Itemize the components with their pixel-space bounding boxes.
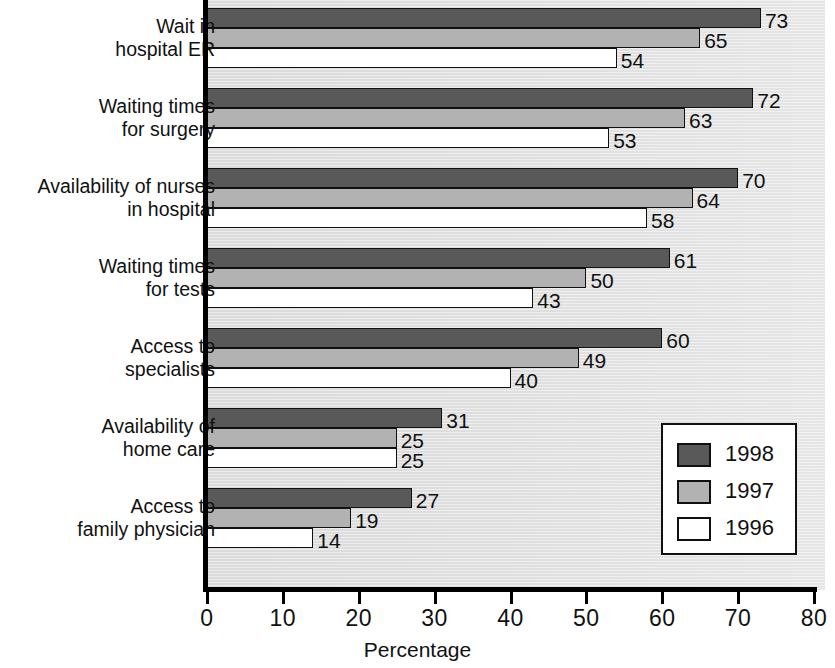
x-tick-60 (661, 592, 664, 604)
bar-value-label: 72 (757, 89, 780, 113)
bar-1998-6 (207, 488, 412, 508)
x-tick-label-10: 10 (253, 605, 313, 632)
bar-value-label: 50 (590, 269, 613, 293)
white-swatch-icon (677, 517, 711, 541)
y-axis-line (203, 0, 208, 592)
x-tick-10 (282, 592, 285, 604)
bar-1998-5 (207, 408, 442, 428)
bar-chart: 7365547263537064586150436049403125252719… (0, 0, 835, 668)
category-label-0: Wait in hospital ER (0, 15, 215, 61)
x-tick-0 (206, 592, 209, 604)
bar-value-label: 54 (621, 49, 644, 73)
legend-label: 1997 (725, 478, 774, 504)
bar-1997-5 (207, 428, 397, 448)
bar-1998-0 (207, 8, 761, 28)
bar-1996-4 (207, 368, 511, 388)
category-label-1: Waiting times for surgery (0, 95, 215, 141)
bar-value-label: 31 (446, 409, 469, 433)
bar-value-label: 27 (416, 489, 439, 513)
bar-1996-1 (207, 128, 609, 148)
x-axis-title: Percentage (0, 638, 835, 662)
x-tick-label-50: 50 (556, 605, 616, 632)
legend: 1998 1997 1996 (661, 423, 797, 555)
x-tick-label-30: 30 (405, 605, 465, 632)
bar-1996-6 (207, 528, 313, 548)
x-tick-40 (510, 592, 513, 604)
x-tick-70 (737, 592, 740, 604)
bar-1998-1 (207, 88, 753, 108)
bar-value-label: 65 (704, 29, 727, 53)
x-tick-50 (585, 592, 588, 604)
x-tick-30 (434, 592, 437, 604)
bar-value-label: 43 (537, 289, 560, 313)
bar-1996-0 (207, 48, 617, 68)
x-tick-80 (813, 592, 816, 604)
bar-value-label: 64 (697, 189, 720, 213)
bar-value-label: 49 (583, 349, 606, 373)
dark-gray-swatch-icon (677, 443, 711, 467)
x-tick-label-40: 40 (481, 605, 541, 632)
bar-1997-1 (207, 108, 685, 128)
bar-1996-3 (207, 288, 533, 308)
medium-gray-swatch-icon (677, 480, 711, 504)
bar-value-label: 58 (651, 209, 674, 233)
bar-value-label: 73 (765, 9, 788, 33)
bar-1997-6 (207, 508, 351, 528)
bar-1996-5 (207, 448, 397, 468)
x-tick-label-0: 0 (177, 605, 237, 632)
bar-value-label: 61 (674, 249, 697, 273)
bar-value-label: 40 (515, 369, 538, 393)
x-tick-label-20: 20 (329, 605, 389, 632)
category-label-5: Availability of home care (0, 415, 215, 461)
bar-value-label: 19 (355, 509, 378, 533)
bar-value-label: 53 (613, 129, 636, 153)
category-label-3: Waiting times for tests (0, 255, 215, 301)
x-tick-label-70: 70 (708, 605, 768, 632)
category-label-2: Availability of nurses in hospital (0, 175, 215, 221)
bar-value-label: 60 (666, 329, 689, 353)
bar-1998-2 (207, 168, 738, 188)
category-label-6: Access to family physician (0, 495, 215, 541)
bar-1997-0 (207, 28, 700, 48)
bar-value-label: 63 (689, 109, 712, 133)
bar-1998-3 (207, 248, 670, 268)
legend-label: 1996 (725, 515, 774, 541)
legend-label: 1998 (725, 441, 774, 467)
bar-value-label: 25 (401, 449, 424, 473)
category-label-4: Access to specialists (0, 335, 215, 381)
bar-1997-3 (207, 268, 586, 288)
x-tick-label-60: 60 (632, 605, 692, 632)
x-tick-label-80: 80 (784, 605, 835, 632)
bar-1996-2 (207, 208, 647, 228)
bar-1997-2 (207, 188, 693, 208)
x-tick-20 (358, 592, 361, 604)
bar-value-label: 70 (742, 169, 765, 193)
bar-1998-4 (207, 328, 662, 348)
bar-1997-4 (207, 348, 579, 368)
bar-value-label: 14 (317, 529, 340, 553)
